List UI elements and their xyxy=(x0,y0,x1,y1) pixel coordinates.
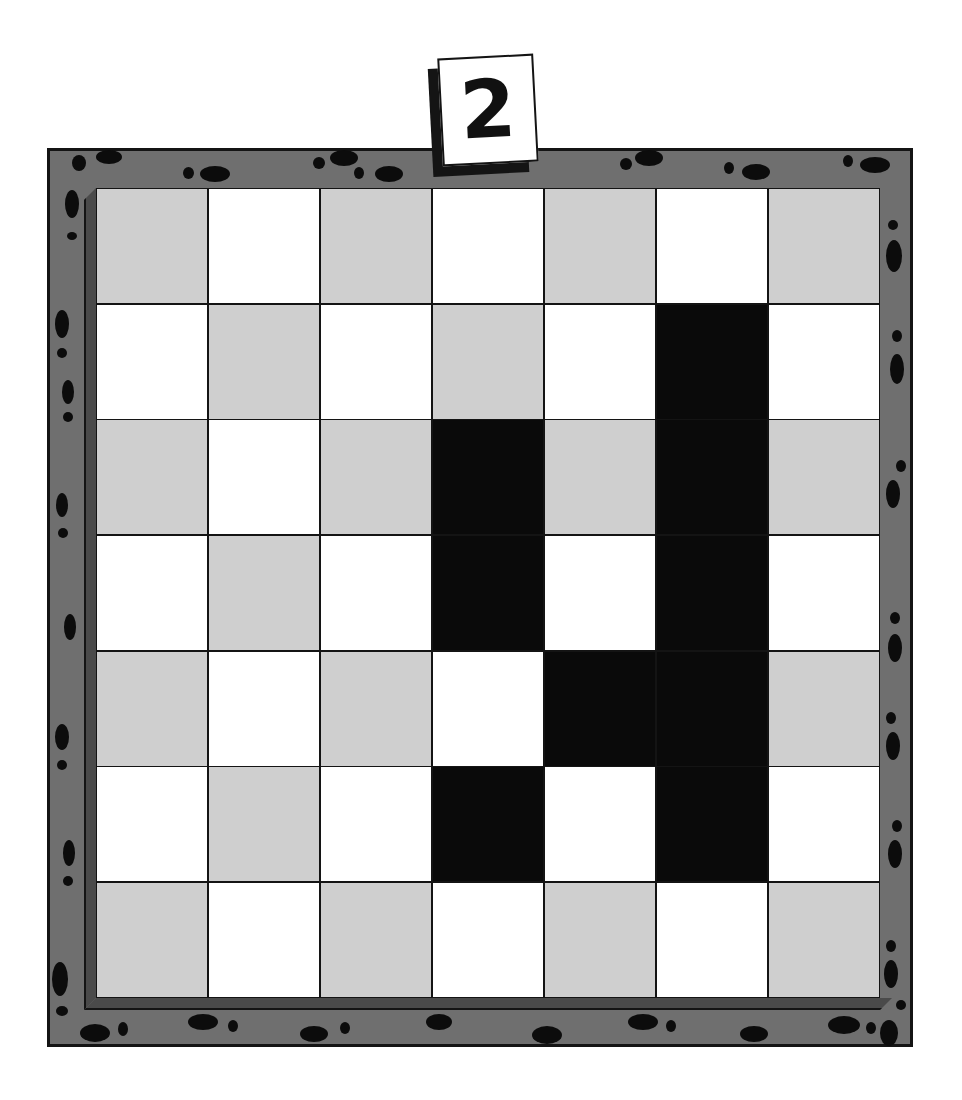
grid-cell[interactable] xyxy=(657,420,767,534)
grid-cell[interactable] xyxy=(321,305,431,419)
grid-cell[interactable] xyxy=(433,652,543,766)
puzzle-grid xyxy=(96,188,880,998)
grid-cell[interactable] xyxy=(769,767,879,881)
puzzle-number: 2 xyxy=(458,69,518,152)
grid-cell[interactable] xyxy=(657,305,767,419)
grid-cell[interactable] xyxy=(209,536,319,650)
grid-cell[interactable] xyxy=(97,652,207,766)
grid-cell[interactable] xyxy=(657,883,767,997)
grid-cell[interactable] xyxy=(657,189,767,303)
grid-cell[interactable] xyxy=(321,536,431,650)
grid-cell[interactable] xyxy=(321,189,431,303)
grid-cell[interactable] xyxy=(433,420,543,534)
grid-cell[interactable] xyxy=(769,536,879,650)
grid-cell[interactable] xyxy=(209,420,319,534)
grid-cell[interactable] xyxy=(321,767,431,881)
grid-cell[interactable] xyxy=(209,767,319,881)
grid-cell[interactable] xyxy=(657,767,767,881)
grid-cell[interactable] xyxy=(545,305,655,419)
grid-cell[interactable] xyxy=(97,189,207,303)
grid-cell[interactable] xyxy=(433,536,543,650)
grid-cell[interactable] xyxy=(545,767,655,881)
grid-cell[interactable] xyxy=(209,189,319,303)
grid-cell[interactable] xyxy=(209,883,319,997)
grid-cell[interactable] xyxy=(769,420,879,534)
grid-cell[interactable] xyxy=(97,420,207,534)
puzzle-number-tile: 2 xyxy=(437,54,539,167)
grid-cell[interactable] xyxy=(433,883,543,997)
grid-cell[interactable] xyxy=(769,305,879,419)
board-bevel-bottom xyxy=(84,998,892,1010)
grid-cell[interactable] xyxy=(97,883,207,997)
grid-cell[interactable] xyxy=(433,305,543,419)
grid-cell[interactable] xyxy=(545,536,655,650)
grid-cell[interactable] xyxy=(209,305,319,419)
board-bevel-left xyxy=(84,188,96,1010)
grid-cell[interactable] xyxy=(545,652,655,766)
grid-cell[interactable] xyxy=(97,305,207,419)
grid-cell[interactable] xyxy=(657,652,767,766)
grid-cell[interactable] xyxy=(769,883,879,997)
grid-cell[interactable] xyxy=(545,883,655,997)
grid-cell[interactable] xyxy=(321,883,431,997)
grid-cell[interactable] xyxy=(769,189,879,303)
grid-cell[interactable] xyxy=(97,536,207,650)
grid-cell[interactable] xyxy=(321,420,431,534)
grid-cell[interactable] xyxy=(657,536,767,650)
grid-cell[interactable] xyxy=(545,420,655,534)
grid-cell[interactable] xyxy=(321,652,431,766)
grid-cell[interactable] xyxy=(97,767,207,881)
grid-cell[interactable] xyxy=(433,767,543,881)
grid-cell[interactable] xyxy=(433,189,543,303)
grid-cell[interactable] xyxy=(769,652,879,766)
grid-cell[interactable] xyxy=(209,652,319,766)
grid-cell[interactable] xyxy=(545,189,655,303)
